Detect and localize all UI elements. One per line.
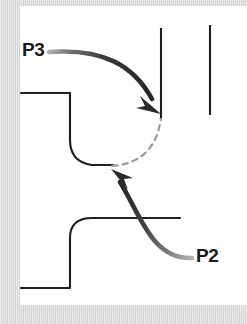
dashed-boundary [112, 118, 161, 166]
upper-wall [21, 93, 113, 165]
label-p2: P2 [196, 246, 219, 265]
figure-root: P3 P2 [0, 0, 247, 324]
arrow-p3-head [136, 96, 161, 114]
arrow-p2-shaft [120, 182, 192, 258]
arrow-p3-shaft [49, 51, 152, 99]
label-p3: P3 [22, 40, 45, 59]
lower-wall [21, 218, 180, 288]
